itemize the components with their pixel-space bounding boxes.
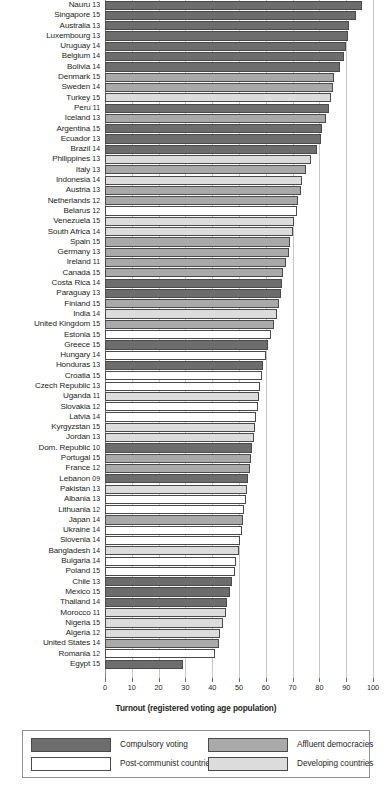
country-year: 13	[92, 248, 100, 255]
bar-row	[105, 278, 392, 288]
country-name: Hungary	[60, 350, 92, 359]
country-label: Germany 13	[0, 247, 103, 257]
bar-row	[105, 618, 392, 628]
bar	[105, 217, 294, 226]
country-year: 15	[92, 11, 100, 18]
country-year: 13	[92, 485, 100, 492]
bar-row	[105, 165, 392, 175]
bar-row	[105, 422, 392, 432]
x-tick-label: 80	[307, 683, 331, 692]
x-tick	[319, 678, 320, 682]
country-name: Paraguay	[56, 288, 92, 297]
x-tick	[159, 678, 160, 682]
bar	[105, 93, 331, 102]
country-year: 15	[92, 217, 100, 224]
country-name: Spain	[70, 237, 92, 246]
country-name: Netherlands	[48, 196, 93, 205]
country-year: 14	[92, 42, 100, 49]
country-label: Estonia 15	[0, 330, 103, 340]
country-year: 14	[92, 145, 100, 152]
country-year: 15	[92, 454, 100, 461]
country-name: Lebanon	[59, 474, 92, 483]
bar	[105, 186, 301, 195]
country-name: Iceland	[65, 113, 93, 122]
bar	[105, 577, 232, 586]
country-name: United Kingdom	[34, 319, 92, 328]
bar-row	[105, 628, 392, 638]
country-label: Czech Republic 13	[0, 381, 103, 391]
x-tick-label: 0	[93, 683, 117, 692]
x-tick-label: 10	[120, 683, 144, 692]
country-name: Italy	[76, 165, 93, 174]
bar-row	[105, 443, 392, 453]
country-label: Morocco 11	[0, 608, 103, 618]
legend-swatch	[31, 738, 111, 752]
bar	[105, 11, 356, 20]
country-label: France 12	[0, 463, 103, 473]
bar	[105, 567, 235, 576]
bar	[105, 608, 226, 617]
country-label: Honduras 13	[0, 360, 103, 370]
bar	[105, 557, 236, 566]
country-label: Slovenia 14	[0, 535, 103, 545]
country-name: Sweden	[62, 82, 93, 91]
bar	[105, 176, 302, 185]
country-year: 12	[92, 197, 100, 204]
bar	[105, 21, 349, 30]
country-year: 09	[92, 475, 100, 482]
bar-row	[105, 113, 392, 123]
country-name: Pakistan	[60, 484, 92, 493]
country-year: 14	[92, 351, 100, 358]
country-label: Nauru 13	[0, 0, 103, 10]
country-name: Indonesia	[56, 175, 92, 184]
bar	[105, 618, 223, 627]
country-year: 14	[92, 547, 100, 554]
bar	[105, 145, 317, 154]
bar-row	[105, 257, 392, 267]
bar-row	[105, 432, 392, 442]
country-name: Argentina	[56, 124, 92, 133]
country-label: Uruguay 14	[0, 41, 103, 51]
bar	[105, 392, 259, 401]
x-tick	[266, 678, 267, 682]
country-year: 13	[92, 578, 100, 585]
bar-row	[105, 340, 392, 350]
country-name: Philippines	[52, 154, 92, 163]
country-name: Chile	[72, 577, 92, 586]
x-tick	[346, 678, 347, 682]
country-name: Denmark	[58, 72, 92, 81]
country-label: Algeria 12	[0, 628, 103, 638]
country-name: Nigeria	[65, 618, 92, 627]
bar-row	[105, 93, 392, 103]
bar	[105, 258, 286, 267]
country-year: 15	[92, 372, 100, 379]
bar-row	[105, 360, 392, 370]
bar-row	[105, 525, 392, 535]
country-label: Jordan 13	[0, 432, 103, 442]
x-tick	[105, 678, 106, 682]
country-year: 14	[92, 310, 100, 317]
legend-label: Developing countries	[297, 757, 373, 771]
bar	[105, 485, 247, 494]
bar	[105, 454, 251, 463]
country-label: Lithuania 12	[0, 505, 103, 515]
bar	[105, 629, 220, 638]
bar-row	[105, 597, 392, 607]
country-label: Thailand 14	[0, 597, 103, 607]
bar	[105, 526, 242, 535]
chart-legend: Compulsory votingAffluent democraciesPos…	[22, 730, 370, 778]
x-tick-label: 30	[173, 683, 197, 692]
country-year: 14	[92, 557, 100, 564]
country-name: Belgium	[62, 51, 93, 60]
country-name: Bulgaria	[61, 556, 92, 565]
country-year: 15	[92, 660, 100, 667]
bar-row	[105, 453, 392, 463]
country-year: 12	[92, 403, 100, 410]
country-year: 15	[92, 94, 100, 101]
x-tick-label: 70	[281, 683, 305, 692]
bar-row	[105, 41, 392, 51]
bar-row	[105, 566, 392, 576]
country-label: Denmark 15	[0, 72, 103, 82]
country-name: Brazil	[71, 144, 93, 153]
country-name: Morocco	[60, 608, 92, 617]
